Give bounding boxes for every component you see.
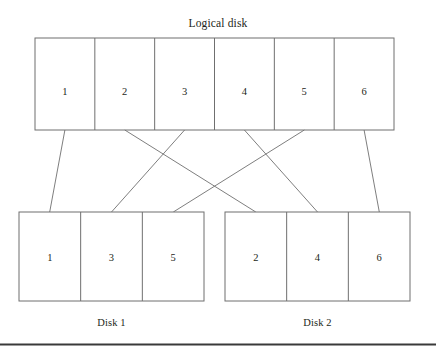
disk-1-row: [19, 212, 204, 301]
connector-block-1: [50, 130, 65, 212]
connector-block-4: [244, 130, 317, 212]
connector-block-2: [125, 130, 256, 212]
disk-2-label: Disk 2: [225, 317, 410, 328]
mapping-connectors: [50, 130, 380, 212]
diagram-canvas: [0, 0, 436, 353]
connector-block-6: [364, 130, 379, 212]
logical-disk-row: [35, 38, 394, 130]
disk-1-outline: [19, 212, 204, 301]
disk-2-outline: [225, 212, 410, 301]
connector-block-5: [173, 130, 304, 212]
connector-block-3: [112, 130, 185, 212]
disk-1-label: Disk 1: [19, 317, 204, 328]
disk-2-row: [225, 212, 410, 301]
figure-container: Logical disk: [0, 0, 436, 353]
